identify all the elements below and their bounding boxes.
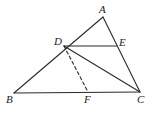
vertex-label-f: F [84,94,91,105]
vertex-label-a: A [99,4,106,15]
geometry-canvas [0,0,153,116]
segment-bc [14,92,140,93]
vertex-label-c: C [137,94,144,105]
segment-ab [14,17,103,93]
vertex-label-b: B [6,94,13,105]
vertex-label-d: D [54,36,62,47]
geometry-figure: A B C D E F [0,0,153,116]
vertex-label-e: E [119,37,126,48]
